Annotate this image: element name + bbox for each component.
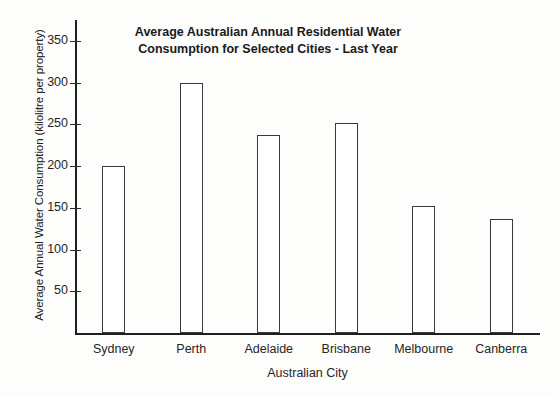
x-axis-label-melbourne: Melbourne <box>385 342 463 356</box>
y-axis-tick-label: 100 <box>28 242 68 256</box>
x-axis-label-canberra: Canberra <box>463 342 541 356</box>
y-axis-tick-mark <box>70 208 81 209</box>
bar-melbourne <box>412 206 435 333</box>
y-axis-tick-label: 300 <box>28 75 68 89</box>
bar-canberra <box>490 219 513 333</box>
x-axis-label-brisbane: Brisbane <box>308 342 386 356</box>
y-axis-tick-mark <box>70 83 81 84</box>
x-axis-label-perth: Perth <box>153 342 231 356</box>
y-axis-line <box>75 20 77 335</box>
y-axis-tick-label: 150 <box>28 200 68 214</box>
x-axis-label-adelaide: Adelaide <box>230 342 308 356</box>
bar-chart: Average Annual Water Consumption (kiloli… <box>0 0 559 397</box>
plot-area: 50100150200250300350 SydneyPerthAdelaide… <box>75 20 540 335</box>
y-axis-tick-mark <box>70 166 81 167</box>
y-axis-tick-mark <box>70 250 81 251</box>
y-axis-tick-label: 250 <box>28 116 68 130</box>
y-axis-tick-mark <box>70 124 81 125</box>
bar-perth <box>180 83 203 333</box>
y-axis-tick-mark <box>70 41 81 42</box>
bar-brisbane <box>335 123 358 333</box>
x-axis-label-sydney: Sydney <box>75 342 153 356</box>
y-axis-tick-label: 350 <box>28 33 68 47</box>
x-axis-line <box>75 333 540 335</box>
bar-adelaide <box>257 135 280 333</box>
x-axis-title: Australian City <box>75 366 540 380</box>
y-axis-tick-label: 50 <box>28 283 68 297</box>
y-axis-tick-label: 200 <box>28 158 68 172</box>
y-axis-tick-mark <box>70 291 81 292</box>
bar-sydney <box>102 166 125 333</box>
